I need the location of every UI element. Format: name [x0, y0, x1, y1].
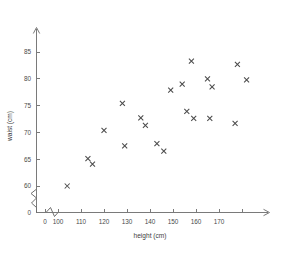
- data-point-marker: [154, 141, 159, 146]
- x-axis-tick-label: 170: [214, 218, 225, 225]
- data-point-marker: [168, 88, 173, 93]
- y-axis-break-icon-lower: [32, 198, 37, 213]
- data-point-group: [65, 59, 249, 189]
- data-point-marker: [233, 121, 238, 126]
- y-axis-tick-label: 70: [24, 129, 32, 136]
- y-axis-title: waist (cm): [6, 111, 14, 142]
- data-point-marker: [143, 123, 148, 128]
- x-axis-tick-label: 110: [76, 218, 87, 225]
- data-point-marker: [191, 116, 196, 121]
- x-axis-tick-label: 150: [168, 218, 179, 225]
- data-point-marker: [138, 115, 143, 120]
- x-axis-tick-label: 100: [53, 218, 64, 225]
- data-point-marker: [65, 184, 70, 189]
- data-point-marker: [90, 162, 95, 167]
- data-point-marker: [210, 84, 215, 89]
- data-point-marker: [161, 149, 166, 154]
- x-axis-tick-label: 130: [122, 218, 133, 225]
- y-axis-tick-label: 65: [24, 156, 32, 163]
- plot-canvas: 06065707580850100110120130140150160170he…: [0, 0, 282, 263]
- y-axis-tick-label: 80: [24, 75, 32, 82]
- data-point-marker: [205, 76, 210, 81]
- x-axis-tick-label: 140: [145, 218, 156, 225]
- data-point-marker: [122, 143, 127, 148]
- x-axis-title: height (cm): [134, 232, 167, 240]
- x-axis-tick-label: 0: [43, 218, 47, 225]
- data-point-marker: [207, 116, 212, 121]
- scatter-plot-figure: 06065707580850100110120130140150160170he…: [0, 0, 282, 263]
- y-axis-tick-label: 60: [24, 182, 32, 189]
- data-point-marker: [120, 101, 125, 106]
- y-axis-break-icon: [31, 190, 37, 199]
- x-axis-tick-label: 120: [99, 218, 110, 225]
- data-point-marker: [184, 109, 189, 114]
- data-point-marker: [244, 77, 249, 82]
- data-point-marker: [85, 156, 90, 161]
- data-point-marker: [235, 62, 240, 67]
- y-axis-tick-label: 85: [24, 48, 32, 55]
- data-point-marker: [102, 128, 107, 133]
- data-point-marker: [189, 59, 194, 64]
- x-axis-tick-label: 160: [191, 218, 202, 225]
- y-axis-tick-label: 0: [27, 209, 31, 216]
- y-axis-tick-label: 75: [24, 102, 32, 109]
- data-point-marker: [180, 82, 185, 87]
